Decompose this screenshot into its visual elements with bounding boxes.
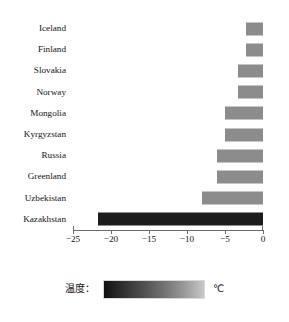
- bar-series: [73, 18, 263, 230]
- x-axis-tick-label: −20: [104, 235, 118, 244]
- bar-row: [73, 103, 263, 124]
- bar-row: [73, 124, 263, 145]
- bar-row: [73, 166, 263, 187]
- bar-track: [225, 128, 263, 141]
- x-axis-line: [73, 230, 263, 231]
- plot-area: [73, 18, 263, 230]
- bar-row: [73, 209, 263, 230]
- bar-row: [73, 188, 263, 209]
- y-axis-label-kyrgyzstan: Kyrgyzstan: [0, 124, 70, 145]
- x-axis-tick-label: −5: [220, 235, 230, 244]
- x-axis-tick-label: −10: [180, 235, 194, 244]
- bar-norway: [238, 86, 263, 99]
- y-axis-label-mongolia: Mongolia: [0, 103, 70, 124]
- y-axis-label-slovakia: Slovakia: [0, 60, 70, 81]
- y-axis-category-labels: Iceland Finland Slovakia Norway Mongolia…: [0, 18, 70, 230]
- bar-chart-figure: Iceland Finland Slovakia Norway Mongolia…: [0, 0, 289, 322]
- bar-track: [238, 86, 263, 99]
- y-axis-label-greenland: Greenland: [0, 166, 70, 187]
- y-axis-label-finland: Finland: [0, 39, 70, 60]
- bar-row: [73, 39, 263, 60]
- legend: 温度： ℃: [0, 272, 289, 306]
- bar-track: [217, 149, 263, 162]
- y-axis-label-russia: Russia: [0, 145, 70, 166]
- bar-row: [73, 82, 263, 103]
- bar-iceland: [246, 22, 263, 35]
- legend-colorbar: [103, 280, 205, 299]
- bar-track: [225, 107, 263, 120]
- bar-slovakia: [238, 65, 263, 78]
- bar-track: [246, 43, 263, 56]
- bar-track: [217, 171, 263, 184]
- bar-track: [246, 22, 263, 35]
- bar-finland: [246, 43, 263, 56]
- x-axis-tick-label: −15: [142, 235, 156, 244]
- y-axis-label-iceland: Iceland: [0, 18, 70, 39]
- bar-greenland: [217, 171, 263, 184]
- y-axis-label-norway: Norway: [0, 82, 70, 103]
- bar-kazakhstan: [98, 213, 263, 226]
- bar-track: [202, 192, 263, 205]
- legend-unit-celsius: ℃: [213, 284, 224, 294]
- legend-label-temperature: 温度：: [65, 284, 95, 294]
- bar-mongolia: [225, 107, 263, 120]
- x-axis-tick-label: 0: [261, 235, 266, 244]
- bar-uzbekistan: [202, 192, 263, 205]
- bar-kyrgyzstan: [225, 128, 263, 141]
- y-axis-label-kazakhstan: Kazakhstan: [0, 209, 70, 230]
- bar-track: [238, 65, 263, 78]
- y-axis-label-uzbekistan: Uzbekistan: [0, 188, 70, 209]
- x-axis-tick-label: −25: [66, 235, 80, 244]
- bar-row: [73, 60, 263, 81]
- bar-row: [73, 145, 263, 166]
- bar-row: [73, 18, 263, 39]
- bar-russia: [217, 149, 263, 162]
- bar-track: [98, 213, 263, 226]
